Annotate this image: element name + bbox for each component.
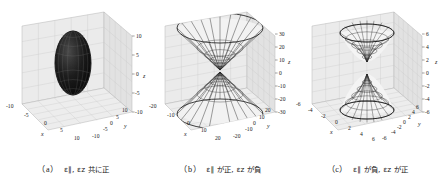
y-tick-c-0: 6 [416, 104, 419, 110]
y-tick-c-6: -6 [382, 135, 387, 141]
panel-c: 6 4 2 0 -2 -4 -6 z -6 -4 -2 0 2 4 6 x [294, 0, 441, 187]
z-tick-a-0: 10 [136, 33, 142, 39]
z-tick-b-3: 0 [279, 70, 282, 76]
x-tick-a-2: 0 [44, 120, 47, 126]
caption-c-label: （c） [327, 165, 348, 174]
z-tick-c-3: 0 [426, 70, 429, 76]
z-tick-b-0: 30 [279, 31, 285, 37]
caption-b-label: （b） [179, 165, 201, 174]
y-tick-a-4: -10 [92, 133, 100, 139]
plot-c-svg: 6 4 2 0 -2 -4 -6 z -6 -4 -2 0 2 4 6 x [294, 0, 441, 158]
axis-label-x-c: x [329, 129, 333, 135]
x-tick-a-4: 10 [74, 135, 80, 141]
x-tick-c-5: 4 [360, 131, 363, 137]
x-tick-c-0: -6 [296, 101, 301, 107]
y-tick-b-0: 20 [265, 107, 271, 113]
x-tick-c-1: -4 [308, 107, 313, 113]
axis-label-z-a: z [142, 73, 146, 79]
z-tick-b-5: -20 [278, 96, 286, 102]
y-tick-a-3: -5 [103, 126, 108, 132]
z-tick-c-2: 2 [426, 57, 429, 63]
z-tick-b-6: -30 [278, 109, 286, 115]
axis-label-y-b: y [266, 123, 270, 129]
caption-c: （c）ε∥ が負, εz が正 [294, 166, 441, 174]
caption-a-text: ε∥, εz 共に正 [64, 165, 110, 174]
y-tick-a-1: 5 [116, 114, 119, 120]
y-tick-b-3: -10 [245, 126, 253, 132]
y-tick-c-1: 4 [412, 109, 415, 115]
x-tick-c-2: -2 [321, 113, 326, 119]
panel-a: 10 5 0 -5 -10 z -10 -5 0 5 10 x 10 5 [0, 0, 147, 187]
y-tick-b-4: -20 [233, 133, 241, 139]
z-tick-b-4: -10 [278, 83, 286, 89]
plot-b-svg: 30 20 10 0 -10 -20 -30 z -20 -10 0 10 20… [147, 0, 294, 158]
caption-a: （a）ε∥, εz 共に正 [0, 166, 147, 174]
x-tick-b-3: 10 [201, 127, 207, 133]
y-tick-c-4: -2 [397, 124, 402, 130]
y-tick-b-1: 10 [259, 114, 265, 120]
axis-label-z-c: z [434, 59, 438, 65]
x-tick-b-0: -20 [149, 103, 157, 109]
z-tick-a-1: 5 [136, 52, 139, 58]
y-tick-a-2: 0 [110, 120, 113, 126]
z-tick-c-5: -4 [425, 96, 430, 102]
x-tick-a-0: -10 [6, 103, 14, 109]
axis-label-x-b: x [183, 131, 187, 137]
caption-b-text: ε∥ が正, εz が負 [206, 165, 261, 174]
z-tick-a-2: 0 [136, 71, 139, 77]
z-tick-b-1: 20 [279, 44, 285, 50]
caption-c-text: ε∥ が負, εz が正 [353, 165, 408, 174]
caption-b: （b）ε∥ が正, εz が負 [147, 166, 294, 174]
y-tick-b-2: 0 [253, 120, 256, 126]
x-tick-c-4: 2 [348, 125, 351, 131]
plot-a-ellipsoid: 10 5 0 -5 -10 z -10 -5 0 5 10 x 10 5 [0, 0, 147, 158]
x-tick-c-6: 6 [372, 136, 375, 142]
x-tick-a-1: -5 [24, 112, 29, 118]
axis-label-z-b: z [287, 59, 291, 65]
caption-a-label: （a） [37, 165, 58, 174]
x-tick-c-3: 0 [335, 119, 338, 125]
plot-c-two-sheet: 6 4 2 0 -2 -4 -6 z -6 -4 -2 0 2 4 6 x [294, 0, 441, 158]
figure-three-panel-dispersion-surfaces: 10 5 0 -5 -10 z -10 -5 0 5 10 x 10 5 [0, 0, 441, 187]
z-tick-a-3: -5 [135, 90, 140, 96]
axis-label-y-c: y [417, 121, 421, 127]
axis-label-y-a: y [123, 123, 127, 129]
axis-label-x-a: x [40, 131, 44, 137]
plot-b-double-cone: 30 20 10 0 -10 -20 -30 z -20 -10 0 10 20… [147, 0, 294, 158]
y-tick-c-3: 0 [403, 119, 406, 125]
z-tick-a-4: -10 [135, 109, 143, 115]
x-tick-a-3: 5 [60, 127, 63, 133]
z-tick-c-6: -6 [425, 109, 430, 115]
plot-a-svg: 10 5 0 -5 -10 z -10 -5 0 5 10 x 10 5 [0, 0, 147, 158]
surface-ellipsoid-a [55, 31, 91, 95]
z-tick-b-2: 10 [279, 57, 285, 63]
y-tick-c-5: -4 [391, 129, 396, 135]
z-tick-c-0: 6 [426, 31, 429, 37]
panel-b: 30 20 10 0 -10 -20 -30 z -20 -10 0 10 20… [147, 0, 294, 187]
x-tick-b-2: 0 [187, 120, 190, 126]
x-tick-b-4: 20 [215, 135, 221, 141]
x-tick-b-1: -10 [167, 112, 175, 118]
y-tick-a-0: 10 [122, 107, 128, 113]
z-tick-c-4: -2 [425, 83, 430, 89]
y-tick-c-2: 2 [408, 114, 411, 120]
z-tick-c-1: 4 [426, 44, 429, 50]
